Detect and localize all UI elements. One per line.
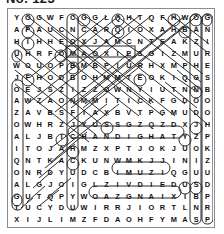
grid-cell[interactable]: I — [22, 214, 33, 226]
grid-cell[interactable]: U — [22, 190, 33, 202]
grid-cell[interactable]: F — [146, 214, 157, 226]
grid-cell[interactable]: A — [157, 24, 168, 36]
grid-cell[interactable]: Z — [168, 48, 179, 60]
grid-cell[interactable]: O — [191, 143, 202, 155]
grid-cell[interactable]: M — [67, 214, 78, 226]
grid-cell[interactable]: J — [45, 143, 56, 155]
grid-cell[interactable]: A — [11, 131, 22, 143]
grid-cell[interactable]: C — [67, 12, 78, 24]
grid-cell[interactable]: H — [33, 36, 44, 48]
grid-cell[interactable]: Z — [101, 178, 112, 190]
grid-cell[interactable]: Q — [146, 119, 157, 131]
grid-cell[interactable]: M — [179, 48, 190, 60]
grid-cell[interactable]: H — [146, 60, 157, 72]
grid-cell[interactable]: A — [90, 107, 101, 119]
grid-cell[interactable]: F — [67, 107, 78, 119]
grid-cell[interactable]: J — [168, 143, 179, 155]
grid-cell[interactable]: T — [134, 12, 145, 24]
grid-cell[interactable]: G — [33, 178, 44, 190]
grid-cell[interactable]: L — [22, 178, 33, 190]
grid-cell[interactable]: S — [101, 119, 112, 131]
grid-cell[interactable]: T — [123, 143, 134, 155]
grid-cell[interactable]: D — [179, 95, 190, 107]
grid-cell[interactable]: U — [90, 119, 101, 131]
grid-cell[interactable]: F — [45, 48, 56, 60]
grid-cell[interactable]: B — [45, 107, 56, 119]
grid-cell[interactable]: O — [22, 60, 33, 72]
grid-cell[interactable]: O — [78, 71, 89, 83]
grid-cell[interactable]: N — [179, 83, 190, 95]
grid-cell[interactable]: M — [101, 71, 112, 83]
grid-cell[interactable]: S — [134, 48, 145, 60]
grid-cell[interactable]: E — [22, 83, 33, 95]
grid-cell[interactable]: M — [168, 60, 179, 72]
grid-cell[interactable]: F — [22, 71, 33, 83]
grid-cell[interactable]: O — [90, 190, 101, 202]
grid-cell[interactable]: P — [202, 214, 213, 226]
grid-cell[interactable]: W — [112, 83, 123, 95]
grid-cell[interactable]: F — [157, 95, 168, 107]
grid-cell[interactable]: G — [168, 95, 179, 107]
grid-cell[interactable]: X — [11, 214, 22, 226]
grid-cell[interactable]: F — [157, 12, 168, 24]
grid-cell[interactable]: V — [123, 107, 134, 119]
grid-cell[interactable]: D — [56, 202, 67, 214]
grid-cell[interactable]: O — [45, 60, 56, 72]
grid-cell[interactable]: H — [33, 119, 44, 131]
grid-cell[interactable]: K — [179, 36, 190, 48]
grid-cell[interactable]: M — [78, 60, 89, 72]
grid-cell[interactable]: S — [112, 119, 123, 131]
grid-cell[interactable]: W — [11, 60, 22, 72]
grid-cell[interactable]: Z — [157, 119, 168, 131]
grid-cell[interactable]: B — [191, 190, 202, 202]
grid-cell[interactable]: Y — [78, 119, 89, 131]
grid-cell[interactable]: W — [22, 119, 33, 131]
grid-cell[interactable]: I — [157, 190, 168, 202]
grid-cell[interactable]: A — [157, 131, 168, 143]
grid-cell[interactable]: P — [146, 107, 157, 119]
grid-cell[interactable]: Z — [191, 36, 202, 48]
grid-cell[interactable]: G — [157, 107, 168, 119]
grid-cell[interactable]: A — [56, 155, 67, 167]
grid-cell[interactable]: P — [56, 60, 67, 72]
grid-cell[interactable]: A — [11, 95, 22, 107]
grid-cell[interactable]: B — [67, 71, 78, 83]
grid-cell[interactable]: W — [78, 190, 89, 202]
grid-cell[interactable]: Z — [202, 155, 213, 167]
grid-cell[interactable]: T — [168, 131, 179, 143]
grid-cell[interactable]: O — [67, 36, 78, 48]
grid-cell[interactable]: B — [202, 83, 213, 95]
grid-cell[interactable]: Q — [45, 190, 56, 202]
grid-cell[interactable]: C — [67, 155, 78, 167]
grid-cell[interactable]: T — [33, 155, 44, 167]
grid-cell[interactable]: P — [112, 143, 123, 155]
grid-cell[interactable]: I — [11, 143, 22, 155]
grid-cell[interactable]: Z — [56, 119, 67, 131]
grid-cell[interactable]: J — [157, 155, 168, 167]
grid-cell[interactable]: G — [33, 12, 44, 24]
grid-cell[interactable]: J — [191, 119, 202, 131]
grid-cell[interactable]: R — [157, 202, 168, 214]
grid-cell[interactable]: N — [134, 190, 145, 202]
grid-cell[interactable]: G — [78, 12, 89, 24]
grid-cell[interactable]: R — [101, 202, 112, 214]
grid-cell[interactable]: I — [191, 155, 202, 167]
grid-cell[interactable]: Y — [56, 167, 67, 179]
grid-cell[interactable]: E — [202, 60, 213, 72]
grid-cell[interactable]: C — [123, 36, 134, 48]
grid-cell[interactable]: I — [112, 60, 123, 72]
grid-cell[interactable]: I — [146, 83, 157, 95]
grid-cell[interactable]: E — [157, 178, 168, 190]
grid-cell[interactable]: C — [78, 24, 89, 36]
grid-cell[interactable]: D — [112, 131, 123, 143]
grid-cell[interactable]: N — [123, 83, 134, 95]
grid-cell[interactable]: B — [179, 24, 190, 36]
grid-cell[interactable]: J — [11, 71, 22, 83]
grid-cell[interactable]: W — [45, 12, 56, 24]
grid-cell[interactable]: N — [179, 155, 190, 167]
grid-cell[interactable]: R — [45, 119, 56, 131]
grid-cell[interactable]: J — [33, 83, 44, 95]
grid-cell[interactable]: X — [78, 36, 89, 48]
grid-cell[interactable]: T — [123, 71, 134, 83]
grid-cell[interactable]: W — [179, 12, 190, 24]
